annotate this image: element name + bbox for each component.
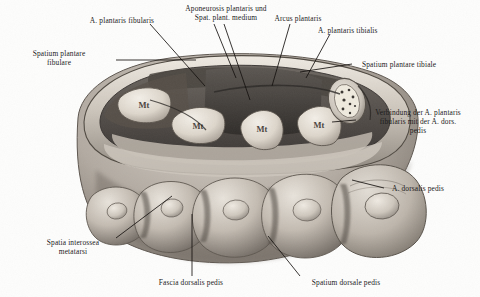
label-arcus-plantaris: Arcus plantaris xyxy=(253,14,343,23)
label-spatium-plantare-fibulare: Spatium plantare fibulare xyxy=(4,49,114,67)
label-spatia-interossea-metatarsi: Spatia interossea metatarsi xyxy=(18,238,128,256)
label-a-dorsalis-pedis: A. dorsalis pedis xyxy=(392,184,444,193)
label-fascia-dorsalis-pedis: Fascia dorsalis pedis xyxy=(130,278,252,287)
label-spatium-plantare-tibiale: Spatium plantare tibiale xyxy=(362,60,436,69)
label-spatium-dorsale-pedis: Spatium dorsale pedis xyxy=(284,278,408,287)
anatomical-plate: Mt Mt Mt Mt xyxy=(0,0,480,297)
label-verbindung-a-plantaris: Verbindung der A. plantaris fibularis mi… xyxy=(357,108,479,135)
label-a-plantaris-tibialis: A. plantaris tibialis xyxy=(318,26,378,35)
